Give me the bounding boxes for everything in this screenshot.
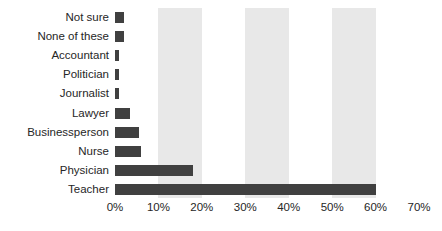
bar (115, 108, 130, 119)
bar-row (115, 27, 419, 46)
x-tick-label: 60% (364, 201, 387, 213)
bar-row (115, 84, 419, 103)
category-label: None of these (0, 27, 109, 46)
bar-row (115, 8, 419, 27)
bar-row (115, 46, 419, 65)
bar (115, 50, 119, 61)
category-label: Teacher (0, 180, 109, 199)
category-label: Not sure (0, 8, 109, 27)
bar (115, 165, 193, 176)
category-label: Lawyer (0, 104, 109, 123)
bar (115, 31, 124, 42)
bar (115, 184, 376, 195)
category-label: Nurse (0, 142, 109, 161)
x-tick-label: 70% (407, 201, 430, 213)
bar (115, 88, 119, 99)
bar-row (115, 142, 419, 161)
x-tick-label: 30% (234, 201, 257, 213)
category-label: Journalist (0, 84, 109, 103)
x-tick-label: 50% (321, 201, 344, 213)
bar (115, 146, 141, 157)
category-label: Physician (0, 161, 109, 180)
x-tick-label: 10% (147, 201, 170, 213)
bar (115, 127, 139, 138)
bar-row (115, 104, 419, 123)
bar-row (115, 65, 419, 84)
category-label: Accountant (0, 46, 109, 65)
bar-rows (115, 8, 419, 198)
bar (115, 12, 124, 23)
x-tick-label: 0% (107, 201, 124, 213)
x-tick-label: 40% (277, 201, 300, 213)
bar-chart: Not sureNone of theseAccountantPoliticia… (0, 0, 442, 231)
bar (115, 69, 119, 80)
category-label: Businessperson (0, 123, 109, 142)
plot-area (115, 8, 419, 198)
bar-row (115, 161, 419, 180)
bar-row (115, 123, 419, 142)
category-axis-labels: Not sureNone of theseAccountantPoliticia… (0, 8, 109, 198)
x-axis: 0%10%20%30%40%50%60%70% (0, 201, 442, 223)
bar-row (115, 180, 419, 199)
category-label: Politician (0, 65, 109, 84)
x-tick-label: 20% (190, 201, 213, 213)
